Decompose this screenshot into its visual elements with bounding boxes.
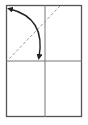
fold-diagram [0,0,88,125]
